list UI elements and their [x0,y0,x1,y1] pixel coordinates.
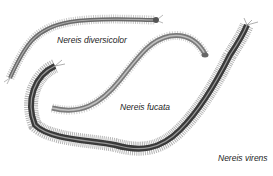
worms-drawing [0,0,273,176]
illustration: Nereis diversicolor Nereis fucata Nereis… [0,0,273,176]
worm-diversicolor [4,15,163,84]
worm-fucata [52,36,209,111]
label-nereis-diversicolor: Nereis diversicolor [57,35,127,45]
label-nereis-virens: Nereis virens [218,153,268,163]
label-nereis-fucata: Nereis fucata [120,102,170,112]
